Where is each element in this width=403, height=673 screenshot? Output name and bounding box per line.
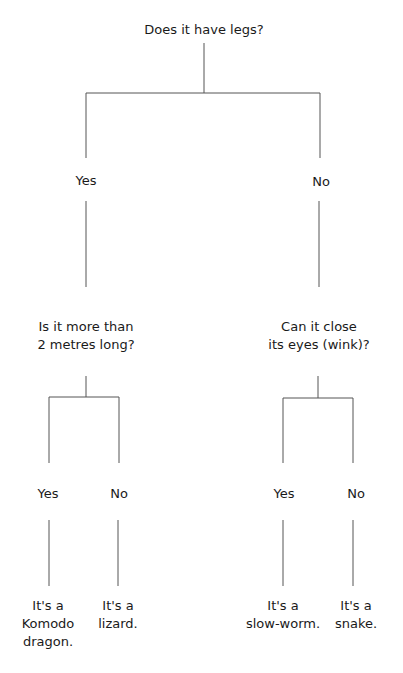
left-yes-label: Yes xyxy=(38,485,59,503)
branch-yes-label: Yes xyxy=(76,172,97,190)
left-no-label: No xyxy=(110,485,128,503)
branch-no-label: No xyxy=(312,173,330,191)
result-line: Komodo xyxy=(22,615,75,633)
right-question: Can it close its eyes (wink)? xyxy=(268,318,369,354)
right-question-line2: its eyes (wink)? xyxy=(268,336,369,354)
decision-tree-diagram: Does it have legs? Yes No Is it more tha… xyxy=(0,0,403,673)
left-question: Is it more than 2 metres long? xyxy=(37,318,134,354)
result-line: It's a xyxy=(246,597,320,615)
result-line: It's a xyxy=(22,597,75,615)
right-yes-label: Yes xyxy=(274,485,295,503)
result-line: dragon. xyxy=(22,633,75,651)
result-snake: It's a snake. xyxy=(335,597,377,633)
result-line: slow-worm. xyxy=(246,615,320,633)
result-slow-worm: It's a slow-worm. xyxy=(246,597,320,633)
left-question-line2: 2 metres long? xyxy=(37,336,134,354)
result-line: snake. xyxy=(335,615,377,633)
right-no-label: No xyxy=(347,485,365,503)
right-question-line1: Can it close xyxy=(268,318,369,336)
root-question: Does it have legs? xyxy=(144,21,263,39)
left-question-line1: Is it more than xyxy=(37,318,134,336)
result-line: It's a xyxy=(98,597,138,615)
result-line: It's a xyxy=(335,597,377,615)
result-lizard: It's a lizard. xyxy=(98,597,138,633)
result-line: lizard. xyxy=(98,615,138,633)
result-komodo-dragon: It's a Komodo dragon. xyxy=(22,597,75,651)
